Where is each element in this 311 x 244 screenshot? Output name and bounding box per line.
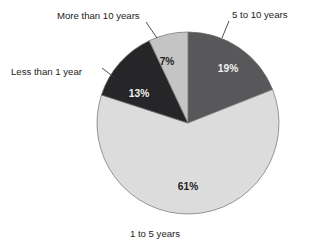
leader-line-more-than-10-years	[146, 22, 157, 38]
slice-value-more-than-10-years: 7%	[160, 56, 175, 67]
pie-chart-page: 19% 61% 13% 7% More than 10 years 5 to 1…	[0, 0, 311, 244]
category-label-more-than-10-years: More than 10 years	[57, 10, 140, 21]
category-label-5-to-10-years: 5 to 10 years	[232, 9, 288, 20]
category-label-less-than-1-year: Less than 1 year	[11, 66, 83, 77]
slice-value-5-to-10-years: 19%	[218, 63, 238, 74]
category-label-1-to-5-years: 1 to 5 years	[130, 228, 180, 239]
leader-line-5-to-10-years	[222, 21, 229, 38]
slice-value-1-to-5-years: 61%	[178, 181, 198, 192]
slice-value-less-than-1-year: 13%	[129, 88, 149, 99]
pie-chart: 19% 61% 13% 7% More than 10 years 5 to 1…	[0, 0, 311, 244]
